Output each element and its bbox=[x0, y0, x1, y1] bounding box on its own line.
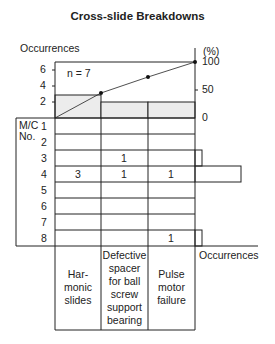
row-label-5: 5 bbox=[41, 184, 47, 196]
bar-pulse-motor bbox=[148, 102, 195, 118]
category-harmonic-slides: Har- monic slides bbox=[55, 268, 101, 307]
sample-size-label: n = 7 bbox=[67, 67, 91, 79]
category-pulse-motor-failure: Pulse motor failure bbox=[148, 268, 195, 307]
occurrences-total-label: Occurrences bbox=[199, 249, 259, 261]
category-defective-spacer: Defective spacer for ball screw support … bbox=[101, 249, 148, 327]
left-axis-label: Occurrences bbox=[20, 42, 80, 54]
right-tick-0: 0 bbox=[202, 111, 208, 123]
row-label-1: 1 bbox=[41, 120, 47, 132]
row-label-2: 2 bbox=[41, 136, 47, 148]
cell-r3-c2: 1 bbox=[101, 152, 147, 164]
cell-r8-c3: 1 bbox=[148, 232, 194, 244]
row-label-8: 8 bbox=[41, 232, 47, 244]
right-tick-100: 100 bbox=[202, 55, 220, 67]
row-label-4: 4 bbox=[41, 168, 47, 180]
cell-r4-c1: 3 bbox=[55, 168, 101, 180]
cell-r4-c3: 1 bbox=[148, 168, 194, 180]
row-label-3: 3 bbox=[41, 152, 47, 164]
row-label-7: 7 bbox=[41, 216, 47, 228]
left-tick-6: 6 bbox=[40, 63, 46, 75]
row-label-6: 6 bbox=[41, 200, 47, 212]
bar-defective-spacer bbox=[101, 102, 148, 118]
left-tick-4: 4 bbox=[40, 79, 46, 91]
left-tick-2: 2 bbox=[40, 95, 46, 107]
row-header-no: No. bbox=[19, 131, 35, 142]
cell-r4-c2: 1 bbox=[101, 168, 147, 180]
right-tick-50: 50 bbox=[202, 83, 214, 95]
